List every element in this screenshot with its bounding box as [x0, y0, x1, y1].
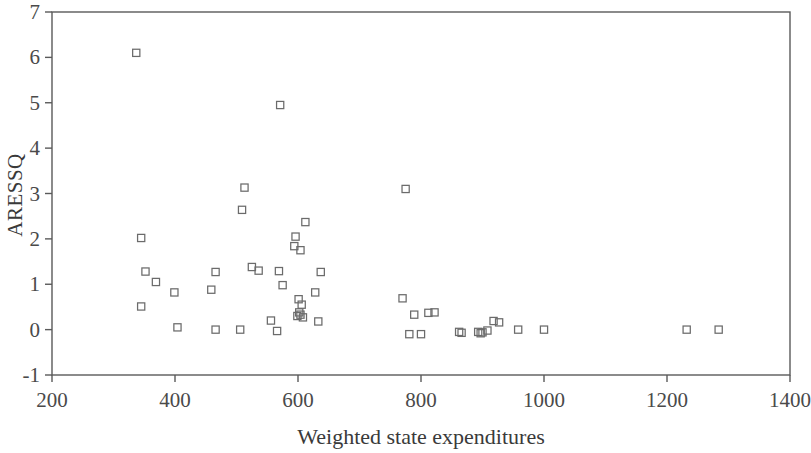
- data-point-marker: [138, 303, 145, 310]
- data-point-marker: [133, 49, 140, 56]
- data-point-marker: [315, 318, 322, 325]
- x-tick-label: 1200: [646, 388, 688, 412]
- data-point-marker: [208, 286, 215, 293]
- y-tick-label: 6: [30, 45, 41, 69]
- y-tick-label: -1: [23, 363, 41, 387]
- y-tick-label: 0: [30, 318, 41, 342]
- data-point-marker: [292, 233, 299, 240]
- data-point-marker: [212, 326, 219, 333]
- data-point-marker: [275, 267, 282, 274]
- data-point-marker: [417, 331, 424, 338]
- data-point-marker: [402, 185, 409, 192]
- data-points-group: [133, 49, 723, 338]
- data-point-marker: [255, 267, 262, 274]
- plot-border: [52, 12, 790, 375]
- y-tick-label: 5: [30, 91, 41, 115]
- data-point-marker: [406, 331, 413, 338]
- data-point-marker: [171, 289, 178, 296]
- x-axis-ticks: 200400600800100012001400: [36, 375, 811, 412]
- data-point-marker: [152, 278, 159, 285]
- x-tick-label: 800: [405, 388, 437, 412]
- y-tick-label: 1: [30, 272, 41, 296]
- plot-frame: [52, 12, 790, 375]
- data-point-marker: [273, 327, 280, 334]
- x-tick-label: 600: [282, 388, 314, 412]
- data-point-marker: [248, 263, 255, 270]
- x-tick-label: 1000: [523, 388, 565, 412]
- data-point-marker: [279, 282, 286, 289]
- plot-canvas: 200400600800100012001400 -101234567 Weig…: [0, 0, 811, 453]
- data-point-marker: [241, 184, 248, 191]
- data-point-marker: [238, 206, 245, 213]
- y-axis-title: ARESSQ: [3, 153, 27, 237]
- y-tick-label: 2: [30, 227, 41, 251]
- data-point-marker: [715, 326, 722, 333]
- x-tick-label: 400: [159, 388, 191, 412]
- scatter-plot-figure: 200400600800100012001400 -101234567 Weig…: [0, 0, 811, 453]
- data-point-marker: [138, 234, 145, 241]
- x-tick-label: 200: [36, 388, 68, 412]
- x-axis-title: Weighted state expenditures: [297, 424, 544, 449]
- data-point-marker: [683, 326, 690, 333]
- data-point-marker: [484, 327, 491, 334]
- x-tick-label: 1400: [769, 388, 811, 412]
- data-point-marker: [411, 311, 418, 318]
- data-point-marker: [212, 268, 219, 275]
- data-point-marker: [237, 326, 244, 333]
- y-tick-label: 4: [30, 136, 41, 160]
- data-point-marker: [174, 324, 181, 331]
- data-point-marker: [302, 218, 309, 225]
- data-point-marker: [267, 317, 274, 324]
- y-tick-label: 7: [30, 0, 41, 24]
- data-point-marker: [142, 268, 149, 275]
- data-point-marker: [317, 268, 324, 275]
- data-point-marker: [540, 326, 547, 333]
- data-point-marker: [515, 326, 522, 333]
- y-tick-label: 3: [30, 182, 41, 206]
- data-point-marker: [277, 101, 284, 108]
- data-point-marker: [399, 295, 406, 302]
- data-point-marker: [312, 289, 319, 296]
